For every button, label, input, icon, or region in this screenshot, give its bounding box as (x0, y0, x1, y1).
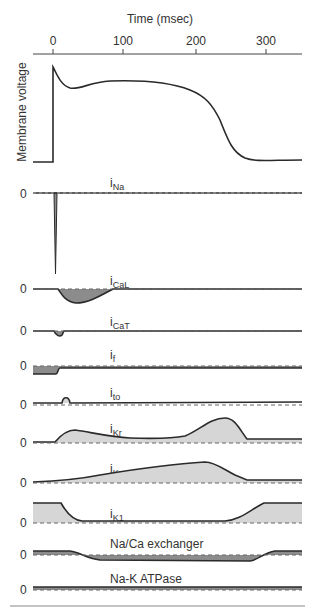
zero-label: 0 (20, 516, 27, 530)
zero-label: 0 (20, 324, 27, 338)
current-label-iCaT: iCaT (110, 315, 130, 331)
current-label-naca-exchanger: Na/Ca exchanger (110, 537, 203, 551)
current-panel-iCaL: 0 iCaL (20, 274, 302, 303)
zero-label: 0 (20, 436, 27, 450)
ionic-currents-figure: Time (msec) 0 100 200 300 Membrane volta… (0, 0, 321, 614)
zero-label: 0 (20, 583, 27, 597)
current-panel-nak-atpase: 0 Na-K ATPase (20, 572, 302, 597)
tick-label-0: 0 (50, 34, 57, 48)
time-axis-title: Time (msec) (127, 12, 193, 26)
zero-label: 0 (20, 476, 27, 490)
tick-label-300: 300 (256, 34, 276, 48)
tick-label-100: 100 (113, 34, 133, 48)
current-label-nak-atpase: Na-K ATPase (110, 572, 182, 586)
current-panel-iKr: 0 iKr (20, 418, 302, 450)
current-panel-iK1: 0 iK1 (20, 503, 302, 530)
voltage-ylabel: Membrane voltage (15, 62, 29, 162)
action-potential-trace (33, 67, 302, 162)
zero-label: 0 (20, 548, 27, 562)
zero-label: 0 (20, 187, 27, 201)
current-panel-if: 0 if (20, 348, 302, 374)
current-label-iNa: iNa (110, 176, 124, 192)
zero-label: 0 (20, 359, 27, 373)
membrane-voltage-panel: Membrane voltage (15, 62, 302, 162)
current-panel-naca-exchanger: 0 Na/Ca exchanger (20, 537, 302, 562)
current-panel-iKs: 0 iKs (20, 462, 302, 490)
current-label-iCaL: iCaL (110, 274, 129, 290)
current-label-ito: ito (110, 386, 120, 402)
current-panel-ito: 0 ito (20, 386, 302, 412)
zero-label: 0 (20, 398, 27, 412)
zero-label: 0 (20, 282, 27, 296)
tick-label-200: 200 (186, 34, 206, 48)
current-panel-iCaT: 0 iCaT (20, 315, 302, 338)
current-panel-iNa: 0 iNa (20, 176, 302, 274)
current-label-if: if (110, 348, 116, 364)
time-axis: Time (msec) 0 100 200 300 (33, 12, 302, 54)
